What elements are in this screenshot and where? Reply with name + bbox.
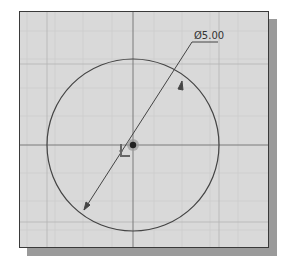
sketch-canvas[interactable]: Ø5.00 bbox=[19, 11, 269, 248]
arrowhead-lower-icon bbox=[84, 202, 90, 210]
origin-point-icon[interactable] bbox=[127, 139, 139, 151]
diameter-dimension[interactable] bbox=[84, 42, 218, 210]
diameter-dimension-label[interactable]: Ø5.00 bbox=[194, 30, 224, 41]
sketch-axes bbox=[20, 12, 268, 247]
grid-minor bbox=[20, 12, 268, 247]
sketch-graphics[interactable]: Ø5.00 bbox=[20, 12, 268, 247]
grid-major bbox=[20, 12, 268, 247]
arrowhead-upper-icon bbox=[178, 81, 183, 90]
